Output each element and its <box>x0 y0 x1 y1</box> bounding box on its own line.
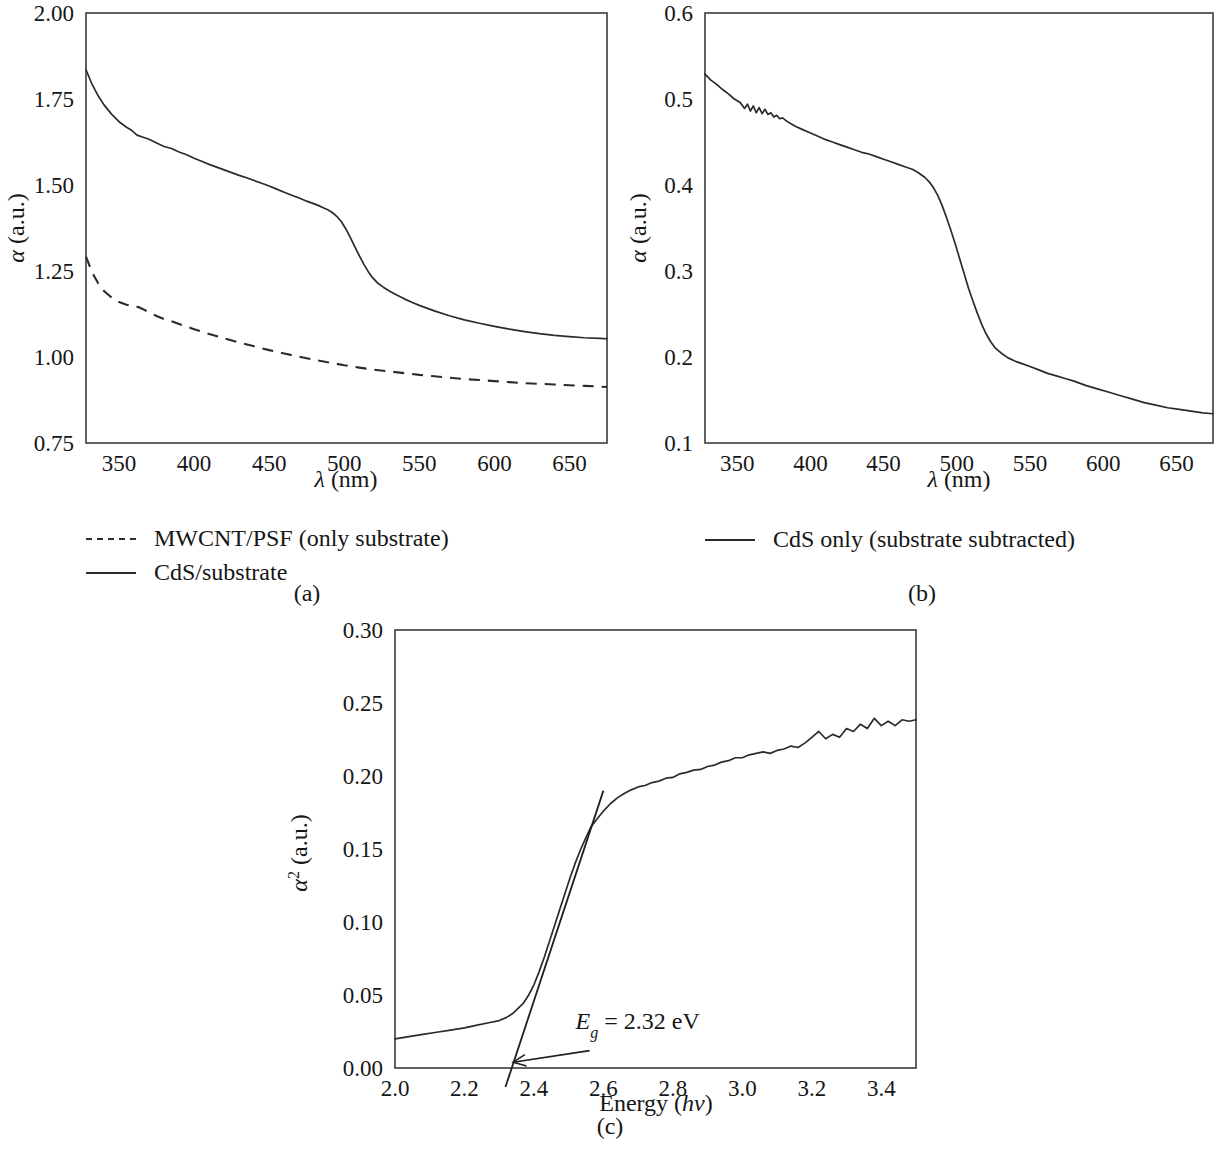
panel-c-y-axis-title: α2 (a.u.) <box>285 814 313 891</box>
y-tick-label: 0.3 <box>664 259 693 284</box>
solid-line-swatch-icon <box>703 532 757 546</box>
series-cds-substrate <box>86 70 607 339</box>
panel-b-y-axis-title: α (a.u.) <box>625 193 651 262</box>
x-tick-label: 450 <box>252 451 287 476</box>
legend-item: CdS only (substrate subtracted) <box>703 522 1075 556</box>
bandgap-value: 2.32 eV <box>624 1008 701 1034</box>
panel-a-x-axis-title: λ (nm) <box>313 466 377 492</box>
bandgap-symbol: E <box>575 1008 591 1034</box>
series-alpha-2-spectrum <box>395 718 916 1038</box>
panel-a-x-symbol: λ <box>313 466 324 492</box>
y-tick-label: 0.2 <box>664 345 693 370</box>
series-tangent-fit <box>505 791 603 1087</box>
dashed-line-swatch-icon <box>84 531 138 545</box>
y-tick-label: 0.25 <box>343 691 383 716</box>
panel-b-x-symbol: λ <box>926 466 937 492</box>
x-tick-label: 3.0 <box>728 1076 757 1101</box>
x-tick-label: 600 <box>477 451 512 476</box>
panel-b-x-unit: (nm) <box>938 466 991 492</box>
x-tick-label: 450 <box>866 451 901 476</box>
panel-c-x-tail: ) <box>705 1090 713 1116</box>
x-tick-label: 350 <box>720 451 755 476</box>
y-tick-label: 1.50 <box>34 173 74 198</box>
y-tick-label: 0.20 <box>343 764 383 789</box>
panel-a: 0.751.001.251.501.752.00 350400450500550… <box>0 0 620 500</box>
legend-label: MWCNT/PSF (only substrate) <box>154 526 449 550</box>
panel-c-x-italic: hν <box>682 1090 705 1116</box>
x-tick-label: 550 <box>402 451 437 476</box>
panel-b-y-unit: (a.u.) <box>625 193 651 250</box>
series-cds-only-substrate-subtracted- <box>705 74 1213 414</box>
y-tick-label: 0.30 <box>343 618 383 643</box>
annotation-arrow-line <box>513 1051 590 1063</box>
panel-a-y-symbol: α <box>3 250 29 263</box>
panel-c-bandgap-annotation: Eg = 2.32 eV <box>513 1008 700 1066</box>
panel-a-y-unit: (a.u.) <box>3 193 29 250</box>
panel-a-y-tick-labels: 0.751.001.251.501.752.00 <box>34 1 74 456</box>
x-tick-label: 3.2 <box>797 1076 826 1101</box>
legend-label: CdS only (substrate subtracted) <box>773 527 1075 551</box>
x-tick-label: 650 <box>552 451 587 476</box>
panel-a-axes-frame <box>86 13 607 443</box>
bandgap-subscript: g <box>590 1023 598 1041</box>
panel-b-axes-frame <box>705 13 1213 443</box>
y-tick-label: 0.15 <box>343 837 383 862</box>
y-tick-label: 0.1 <box>664 431 693 456</box>
y-tick-label: 0.6 <box>664 1 693 26</box>
series-mwcnt-psf-only-substrate- <box>86 257 607 387</box>
figure-root: 0.751.001.251.501.752.00 350400450500550… <box>0 0 1221 1159</box>
panel-a-y-axis-title: α (a.u.) <box>3 193 29 262</box>
bandgap-equals: = <box>598 1008 624 1034</box>
y-tick-label: 2.00 <box>34 1 74 26</box>
x-tick-label: 550 <box>1013 451 1048 476</box>
x-tick-label: 2.0 <box>381 1076 410 1101</box>
panel-c: 0.000.050.100.150.200.250.30 2.02.22.42.… <box>280 615 940 1115</box>
y-tick-label: 0.05 <box>343 983 383 1008</box>
x-tick-label: 600 <box>1086 451 1121 476</box>
panel-a-curves <box>86 70 607 387</box>
y-tick-label: 0.75 <box>34 431 74 456</box>
panel-c-subcaption: (c) <box>546 1113 674 1140</box>
panel-c-plot: 0.000.050.100.150.200.250.30 2.02.22.42.… <box>280 615 940 1115</box>
legend-item: MWCNT/PSF (only substrate) <box>84 521 449 555</box>
bandgap-label: Eg = 2.32 eV <box>575 1008 701 1042</box>
x-tick-label: 2.2 <box>450 1076 479 1101</box>
panel-a-plot: 0.751.001.251.501.752.00 350400450500550… <box>0 0 620 500</box>
x-tick-label: 650 <box>1159 451 1194 476</box>
y-tick-label: 0.10 <box>343 910 383 935</box>
y-tick-label: 0.5 <box>664 87 693 112</box>
panel-b-legend: CdS only (substrate subtracted) <box>703 522 1075 556</box>
panel-b-plot: 0.10.20.30.40.50.6 350400450500550600650… <box>620 0 1221 500</box>
panel-c-y-tick-labels: 0.000.050.100.150.200.250.30 <box>343 618 383 1081</box>
x-tick-label: 400 <box>177 451 212 476</box>
panel-c-axes-frame <box>395 630 916 1068</box>
x-tick-label: 3.4 <box>867 1076 896 1101</box>
y-tick-label: 1.00 <box>34 345 74 370</box>
panel-b: 0.10.20.30.40.50.6 350400450500550600650… <box>620 0 1221 500</box>
panel-a-subcaption: (a) <box>243 580 371 607</box>
panel-c-y-sup: 2 <box>285 871 302 879</box>
panel-c-y-unit: (a.u.) <box>286 814 312 871</box>
y-tick-label: 1.25 <box>34 259 74 284</box>
solid-line-swatch-icon <box>84 565 138 579</box>
x-tick-label: 2.4 <box>520 1076 549 1101</box>
x-tick-label: 400 <box>793 451 828 476</box>
panel-b-y-tick-labels: 0.10.20.30.40.50.6 <box>664 1 693 456</box>
panel-c-y-symbol: α <box>286 879 312 892</box>
y-tick-label: 0.4 <box>664 173 693 198</box>
panel-b-subcaption: (b) <box>858 580 986 607</box>
panel-a-x-unit: (nm) <box>325 466 378 492</box>
panel-b-x-axis-title: λ (nm) <box>926 466 990 492</box>
y-tick-label: 0.00 <box>343 1056 383 1081</box>
y-tick-label: 1.75 <box>34 87 74 112</box>
panel-a-legend: MWCNT/PSF (only substrate) CdS/substrate <box>84 521 449 589</box>
x-tick-label: 350 <box>102 451 137 476</box>
panel-b-y-symbol: α <box>625 250 651 263</box>
panel-b-curves <box>705 74 1213 414</box>
